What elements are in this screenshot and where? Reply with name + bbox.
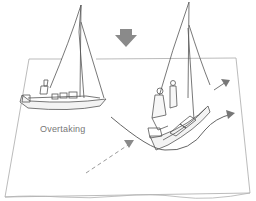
sailboat-overtaken-icon [20,5,106,110]
overtaking-label: Overtaking [40,124,86,134]
sailboat-overtaking-icon [148,2,210,150]
wind-arrow-icon [115,29,137,47]
dashed-approach-arrow [86,140,134,173]
direction-arrow [214,79,230,90]
overtaking-diagram: Overtaking [0,0,256,201]
diagram-canvas [0,0,256,201]
